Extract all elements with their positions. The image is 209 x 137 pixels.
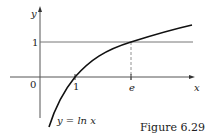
y-axis-label: y: [30, 8, 37, 19]
ln-curve: [49, 25, 192, 127]
origin-label: 0: [30, 79, 36, 90]
figure-caption: Figure 6.29: [140, 121, 205, 134]
curve-label: y = ln x: [56, 115, 96, 126]
x-axis-arrow-icon: [189, 75, 195, 79]
y-axis-arrow-icon: [38, 6, 42, 12]
x-axis-label: x: [194, 82, 200, 93]
x-tick-1-label: 1: [73, 81, 79, 92]
y-tick-1-label: 1: [32, 37, 38, 48]
ln-graph: y x 1 0 1 e y = ln x: [0, 0, 209, 137]
x-tick-e-label: e: [129, 82, 135, 93]
